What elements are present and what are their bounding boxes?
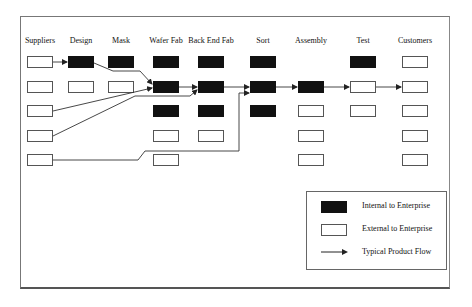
legend-internal-swatch: [321, 201, 347, 213]
flow-arrow: [94, 63, 152, 84]
legend-internal-label: Internal to Enterprise: [362, 201, 430, 210]
legend-flow-label: Typical Product Flow: [362, 247, 431, 256]
flow-arrow: [53, 93, 249, 160]
legend: Internal to Enterprise External to Enter…: [306, 191, 447, 270]
legend-external-swatch: [321, 224, 347, 236]
flow-arrow: [53, 88, 152, 111]
legend-arrow-icon: [321, 247, 351, 257]
flow-arrow: [53, 90, 197, 136]
legend-external-label: External to Enterprise: [362, 224, 432, 233]
